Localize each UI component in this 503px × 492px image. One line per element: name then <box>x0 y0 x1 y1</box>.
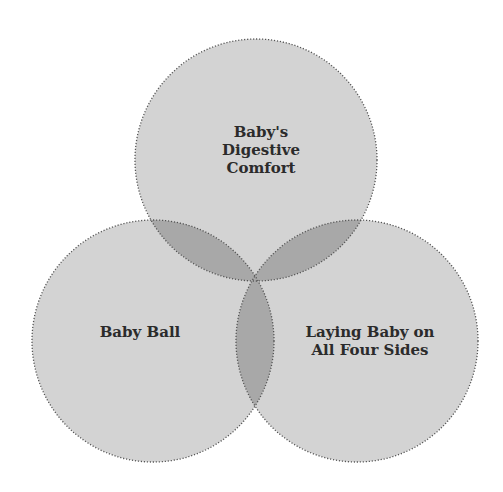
label-right: Laying Baby on All Four Sides <box>305 323 434 359</box>
label-left: Baby Ball <box>100 323 181 341</box>
venn-diagram <box>0 0 503 492</box>
label-top-line-3: Comfort <box>222 159 300 177</box>
label-left-line-1: Baby Ball <box>100 323 181 341</box>
label-top-line-1: Baby's <box>222 123 300 141</box>
label-right-line-2: All Four Sides <box>305 341 434 359</box>
label-top: Baby's Digestive Comfort <box>222 123 300 177</box>
label-top-line-2: Digestive <box>222 141 300 159</box>
label-right-line-1: Laying Baby on <box>305 323 434 341</box>
